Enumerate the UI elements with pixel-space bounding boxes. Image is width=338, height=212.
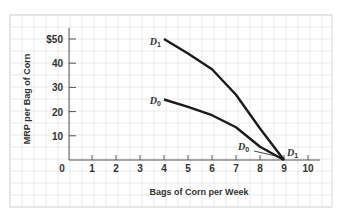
y-tick-label: 10	[52, 131, 64, 142]
x-tick-label: 6	[209, 163, 215, 174]
x-tick-label: 0	[59, 163, 65, 174]
x-tick-label: 10	[302, 163, 314, 174]
x-tick-label: 9	[281, 163, 287, 174]
x-tick-label: 7	[233, 163, 239, 174]
y-axis-title: MRP per Bag of Corn	[22, 54, 32, 144]
x-tick-label: 1	[89, 163, 95, 174]
y-tick-label: $50	[46, 34, 63, 45]
x-tick-label: 4	[161, 163, 167, 174]
x-axis-title: Bags of Corn per Week	[150, 187, 250, 197]
y-tick-label: 20	[52, 107, 64, 118]
mrp-chart: 01234567891010203040$50 D1D0D1D0 Bags of…	[0, 0, 338, 212]
y-tick-label: 40	[52, 58, 64, 69]
y-tick-label: 30	[52, 82, 64, 93]
x-tick-label: 5	[185, 163, 191, 174]
x-tick-label: 8	[257, 163, 263, 174]
x-tick-label: 3	[137, 163, 143, 174]
x-tick-label: 2	[113, 163, 119, 174]
